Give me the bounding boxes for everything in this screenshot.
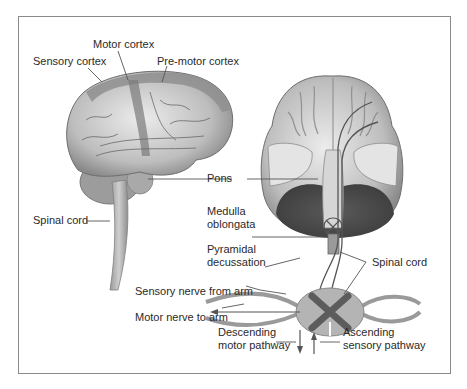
label-ascending-line1: Ascending	[343, 326, 394, 339]
label-premotor-cortex: Pre-motor cortex	[157, 55, 239, 68]
label-motor-nerve: Motor nerve to arm	[135, 311, 228, 324]
label-spinal-cord-left: Spinal cord	[33, 214, 88, 227]
label-sensory-nerve: Sensory nerve from arm	[135, 285, 253, 298]
label-spinal-cord-right: Spinal cord	[372, 256, 427, 269]
label-medulla-line2: oblongata	[207, 218, 255, 231]
label-pyramidal-line1: Pyramidal	[207, 243, 256, 256]
label-pons: Pons	[207, 172, 232, 185]
label-motor-cortex: Motor cortex	[93, 38, 154, 51]
label-pyramidal-line2: decussation	[207, 256, 266, 269]
label-medulla-line1: Medulla	[207, 205, 246, 218]
label-sensory-cortex: Sensory cortex	[33, 55, 106, 68]
ventral-brain	[261, 76, 403, 312]
label-descending-line2: motor pathway	[218, 339, 290, 352]
label-descending-line1: Descending	[218, 326, 276, 339]
label-ascending-line2: sensory pathway	[343, 339, 426, 352]
